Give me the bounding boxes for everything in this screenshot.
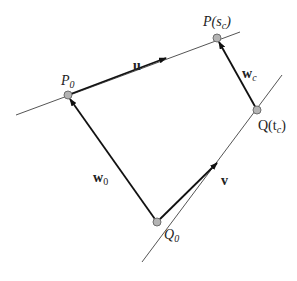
label-w0: w0: [93, 170, 108, 187]
diagram-canvas: P0 P(sc) Q(tc) Q0 u v w0 wc: [0, 0, 297, 281]
label-p-sc: P(sc): [202, 14, 231, 31]
label-wc: wc: [242, 66, 257, 83]
point-q0: [153, 218, 161, 226]
vector-u: [68, 58, 166, 95]
label-q-tc: Q(tc): [258, 118, 286, 135]
label-q0: Q0: [164, 227, 179, 244]
line-p: [16, 32, 240, 115]
point-p0: [64, 91, 72, 99]
vector-w0: [70, 99, 157, 222]
point-q-tc: [253, 106, 261, 114]
label-v: v: [221, 173, 228, 188]
vector-v: [157, 163, 217, 222]
point-p-sc: [213, 34, 221, 42]
label-p0: P0: [60, 73, 75, 90]
label-u: u: [133, 58, 141, 73]
